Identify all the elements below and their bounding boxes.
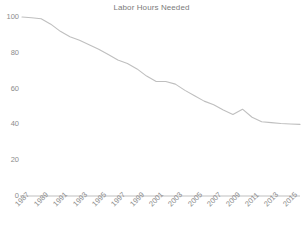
x-tick-1999: 1999 — [128, 190, 146, 208]
x-tick-1987: 1987 — [13, 190, 31, 208]
x-tick-2001: 2001 — [147, 190, 165, 208]
x-axis-tick-labels: 1987198919911993199519971999200120032005… — [0, 0, 303, 230]
x-tick-1991: 1991 — [51, 190, 69, 208]
x-tick-2013: 2013 — [262, 190, 280, 208]
x-tick-2011: 2011 — [243, 191, 261, 209]
x-tick-2007: 2007 — [205, 190, 223, 208]
x-tick-2003: 2003 — [166, 190, 184, 208]
x-tick-2015: 2015 — [281, 190, 299, 208]
x-tick-1997: 1997 — [109, 190, 127, 208]
x-tick-1995: 1995 — [90, 190, 108, 208]
chart-container: Labor Hours Needed 020406080100 19871989… — [0, 0, 303, 230]
x-tick-2005: 2005 — [186, 190, 204, 208]
x-tick-2009: 2009 — [224, 190, 242, 208]
x-tick-1989: 1989 — [32, 190, 50, 208]
x-tick-1993: 1993 — [71, 190, 89, 208]
